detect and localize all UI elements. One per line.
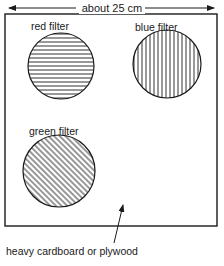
dimension-label: about 25 cm [79,2,146,14]
board-pointer-arrow [114,205,123,243]
dimension-label-wrap: about 25 cm [0,2,224,14]
green-filter-label: green filter [29,125,79,137]
red-filter-label: red filter [31,20,69,32]
board-label: heavy cardboard or plywood [6,245,138,257]
green-filter-circle [23,135,95,207]
blue-filter-label: blue filter [135,21,178,33]
blue-filter-circle [133,30,201,98]
red-filter-circle [28,33,94,99]
